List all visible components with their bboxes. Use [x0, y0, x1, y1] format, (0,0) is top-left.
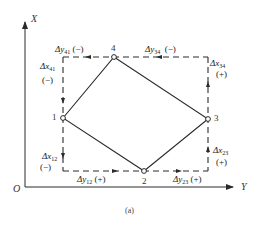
dx23-sign: (+) [216, 158, 227, 167]
dx23-symbol: Δx [213, 145, 222, 155]
arrow-dy12-icon [112, 169, 118, 173]
vertex-markers [61, 55, 211, 174]
dy23-symbol: Δy [173, 174, 182, 184]
vertex-4-marker [112, 55, 117, 60]
arrow-dy41-icon [85, 55, 91, 59]
arrow-dx23-icon [206, 146, 210, 152]
dx23-label: Δx23 [213, 146, 228, 156]
dx12-symbol: Δx [42, 151, 51, 161]
arrow-dx12-icon [61, 153, 65, 159]
arrow-dx34-icon [206, 81, 210, 87]
dx23-subscript: 23 [222, 150, 228, 156]
traverse-polygon [63, 57, 208, 171]
figure-caption: (a) [125, 207, 134, 215]
dy41-label: Δy41 (−) [55, 45, 84, 55]
dx41-sign: (−) [42, 76, 53, 85]
dy41-subscript: 41 [64, 49, 70, 55]
arrow-dy23-icon [176, 169, 182, 173]
vertex-2-marker [142, 169, 147, 174]
dx12-sign: (−) [40, 163, 51, 172]
dx34-sign: (+) [216, 70, 227, 79]
dx34-label: Δx34 [210, 59, 225, 69]
dy34-symbol: Δy [145, 44, 154, 54]
dy23-subscript: 23 [182, 179, 188, 185]
diagram-canvas [0, 0, 264, 232]
arrow-dx41-icon [61, 98, 65, 104]
y-axis-label: Y [241, 182, 247, 192]
dy34-label: Δy34 (−) [145, 45, 176, 55]
point-1-label: 1 [52, 113, 57, 122]
dx41-label: Δx41 [40, 62, 55, 72]
point-3-label: 3 [214, 114, 219, 123]
dy34-sign: (−) [165, 44, 176, 54]
vertex-3-marker [206, 117, 211, 122]
x-axis-label: X [31, 14, 37, 24]
dx41-subscript: 41 [49, 66, 55, 72]
dy23-label: Δy23 (+) [173, 175, 202, 185]
dy12-sign: (+) [95, 174, 106, 184]
dy34-subscript: 34 [154, 49, 160, 55]
dy41-symbol: Δy [55, 44, 64, 54]
vertex-1-marker [61, 116, 66, 121]
dy12-symbol: Δy [77, 174, 86, 184]
point-4-label: 4 [111, 44, 116, 53]
dy41-sign: (−) [73, 44, 84, 54]
dx12-label: Δx12 [42, 152, 57, 162]
dy23-sign: (+) [191, 174, 202, 184]
arrow-dy34-icon [156, 55, 162, 59]
dashed-increment-box [63, 57, 208, 171]
origin-label: O [13, 184, 20, 194]
dx41-symbol: Δx [40, 61, 49, 71]
dx12-subscript: 12 [51, 156, 57, 162]
point-2-label: 2 [142, 177, 147, 186]
direction-arrows [61, 55, 210, 173]
dx34-symbol: Δx [210, 58, 219, 68]
dy12-label: Δy12 (+) [77, 175, 106, 185]
dy12-subscript: 12 [86, 179, 92, 185]
